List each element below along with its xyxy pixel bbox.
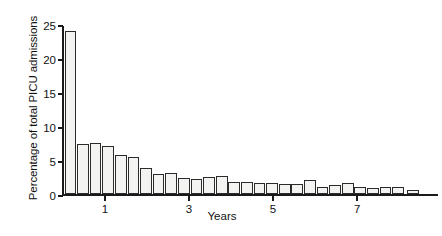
bar (191, 179, 203, 194)
bar (279, 184, 291, 194)
bar (65, 31, 77, 194)
y-axis-label: Percentage of total PICU admissions (22, 10, 44, 206)
bar (140, 168, 152, 194)
y-tick-label: 20 (43, 52, 56, 68)
y-tick-mark (58, 25, 63, 27)
bar (178, 178, 190, 194)
bar (203, 177, 215, 194)
x-tick-mark-3 (188, 196, 190, 201)
bar (354, 187, 366, 194)
x-tick-label: 3 (186, 202, 192, 216)
bar (90, 143, 102, 194)
bar (291, 184, 303, 194)
bar (254, 183, 266, 194)
bar (216, 176, 228, 194)
bar (317, 187, 329, 194)
y-tick-mark (58, 59, 63, 61)
x-axis-spine (62, 194, 438, 196)
bar (241, 182, 253, 194)
bar (153, 174, 165, 194)
bar (342, 183, 354, 194)
y-tick-mark (58, 127, 63, 129)
y-tick-label: 15 (43, 86, 56, 102)
bar (115, 155, 127, 194)
y-tick-mark (58, 161, 63, 163)
bar (380, 187, 392, 194)
bar (407, 190, 419, 194)
bar (228, 182, 240, 194)
bar (329, 185, 341, 194)
x-tick-mark-5 (272, 196, 274, 201)
bar (392, 187, 404, 194)
bar (102, 146, 114, 194)
x-tick-label: 7 (354, 202, 360, 216)
y-tick-label: 5 (50, 154, 56, 170)
x-tick-label: 1 (102, 202, 108, 216)
bar (367, 188, 379, 194)
x-axis-label: Years (60, 210, 440, 222)
bar (128, 157, 140, 194)
bar (77, 144, 89, 194)
x-tick-label: 5 (270, 202, 276, 216)
y-tick-mark (58, 195, 63, 197)
y-tick-label: 25 (43, 18, 56, 34)
bar (165, 173, 177, 194)
x-tick-mark-7 (356, 196, 358, 201)
plot-area: 0510152025 1357 (62, 24, 438, 196)
bar (266, 183, 278, 194)
chart-figure: Percentage of total PICU admissions Year… (0, 0, 442, 236)
y-tick-mark (58, 93, 63, 95)
y-tick-label: 0 (50, 188, 56, 204)
x-axis-label-text: Years (208, 210, 237, 222)
y-tick-label: 10 (43, 120, 56, 136)
x-tick-mark-1 (104, 196, 106, 201)
bar (304, 180, 316, 194)
